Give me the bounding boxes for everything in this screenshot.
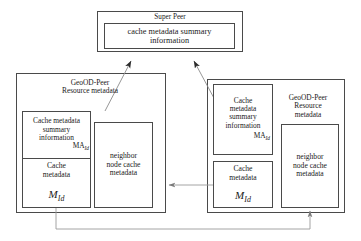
super-peer-title: Super Peer — [97, 13, 243, 21]
left-peer-summary-symbol: MAId — [22, 142, 91, 152]
left-peer-title: GeoOD-Peer Resource metadata — [24, 79, 156, 96]
left-peer-summary-symbol-base: MA — [73, 141, 85, 150]
right-peer-summary-text: Cache metadata summary information — [213, 97, 273, 130]
left-peer-cache-symbol-sub: Id — [58, 194, 65, 203]
left-peer-summary-label: Cache metadata summary information MAId — [22, 112, 91, 158]
diagram-canvas: Super Peer cache metadata summary inform… — [0, 0, 361, 241]
right-peer-title: GeoOD-Peer Resource metadata — [276, 94, 340, 119]
left-peer-cache-label: Cache metadata — [22, 162, 91, 179]
right-peer-cache-symbol: MId — [213, 189, 273, 205]
right-peer-neighbor-label: neighbor node cache metadata — [281, 124, 339, 208]
right-peer-summary-symbol: MAId — [213, 130, 273, 142]
left-peer-cache-symbol: MId — [22, 188, 91, 204]
super-peer-summary-label: cache metadata summary information — [104, 23, 235, 49]
right-peer-summary-label: Cache metadata summary information MAId — [213, 85, 273, 154]
left-peer-summary-symbol-sub: Id — [85, 146, 89, 152]
right-peer-summary-symbol-sub: Id — [266, 135, 270, 141]
right-peer-cache-symbol-sub: Id — [244, 195, 251, 204]
right-peer-summary-symbol-base: MA — [254, 131, 266, 140]
left-peer-summary-text: Cache metadata summary information — [22, 117, 91, 142]
left-peer-cache-symbol-base: M — [49, 188, 58, 200]
right-peer-cache-label: Cache metadata — [213, 165, 273, 182]
right-peer-cache-symbol-base: M — [235, 189, 244, 201]
left-peer-neighbor-label: neighbor node cache metadata — [94, 122, 153, 208]
